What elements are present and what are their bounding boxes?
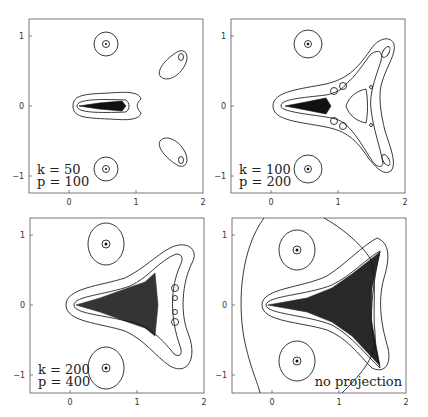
contour-plot: 0 1 2 1 0 −1 k = 50 p = 100 <box>29 19 203 193</box>
x-tick: 0 <box>268 198 273 207</box>
x-tick: 1 <box>134 398 139 407</box>
y-tick: 0 <box>222 301 227 310</box>
y-tick: −1 <box>13 371 25 380</box>
x-tick: 1 <box>133 198 138 207</box>
contour-plot: 0 1 2 1 0 −1 k = 100 p = 200 <box>231 19 405 193</box>
y-tick: −1 <box>215 371 227 380</box>
panel-bottom-right: 0 1 2 1 0 −1 no projection <box>232 218 406 393</box>
x-tick: 0 <box>269 398 274 407</box>
y-tick: 1 <box>221 32 226 41</box>
y-tick: 1 <box>19 32 24 41</box>
panel-top-left: 0 1 2 1 0 −1 k = 50 p = 100 <box>29 19 203 193</box>
y-tick: 0 <box>19 102 24 111</box>
y-tick: −1 <box>12 172 24 181</box>
y-tick: −1 <box>214 172 226 181</box>
y-tick: 0 <box>20 301 25 310</box>
contour-plot: 0 1 2 1 0 −1 no projection <box>232 218 406 393</box>
x-tick: 2 <box>403 398 408 407</box>
x-tick: 0 <box>66 198 71 207</box>
annotation-p: p = 200 <box>239 174 291 189</box>
y-tick: 1 <box>222 231 227 240</box>
x-tick: 2 <box>402 198 407 207</box>
annotation-p: p = 100 <box>37 174 89 189</box>
annotation-p: p = 400 <box>38 374 90 389</box>
panel-bottom-left: 0 1 2 1 0 −1 k = 200 p = 400 <box>30 218 204 393</box>
x-tick: 1 <box>335 198 340 207</box>
y-tick: 1 <box>20 231 25 240</box>
x-tick: 2 <box>200 198 205 207</box>
annotation-no-projection: no projection <box>315 374 403 389</box>
x-tick: 1 <box>336 398 341 407</box>
panel-top-right: 0 1 2 1 0 −1 k = 100 p = 200 <box>231 19 405 193</box>
contour-plot: 0 1 2 1 0 −1 k = 200 p = 400 <box>30 218 204 393</box>
x-tick: 0 <box>67 398 72 407</box>
y-tick: 0 <box>221 102 226 111</box>
x-tick: 2 <box>201 398 206 407</box>
